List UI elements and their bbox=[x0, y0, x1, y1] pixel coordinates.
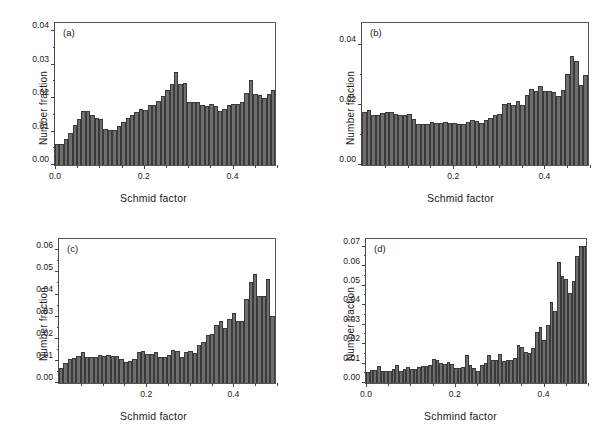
y-axis-tick bbox=[358, 104, 362, 105]
panel-b-plot-area: (b) 0.000.020.040.20.4 bbox=[361, 22, 589, 166]
y-axis-tick bbox=[364, 255, 367, 256]
x-axis-tick bbox=[124, 383, 125, 386]
x-axis-tick bbox=[544, 383, 545, 387]
y-axis-tick-label: 0.01 bbox=[32, 121, 49, 131]
x-axis-tick bbox=[522, 165, 523, 168]
x-axis-tick-label: 0.2 bbox=[449, 389, 461, 399]
x-axis-tick-label: 0.4 bbox=[227, 389, 239, 399]
y-axis-tick bbox=[364, 275, 367, 276]
y-axis-tick bbox=[55, 294, 59, 295]
x-axis-tick bbox=[567, 165, 568, 168]
panel-b: Number fraction (b) 0.000.020.040.20.4 S… bbox=[307, 0, 614, 216]
x-axis-tick bbox=[277, 165, 278, 168]
y-axis-tick-label: 0.05 bbox=[36, 262, 53, 272]
histogram-bar bbox=[583, 75, 588, 165]
x-axis-tick-label: 0.2 bbox=[138, 171, 150, 181]
y-axis-tick bbox=[55, 249, 59, 250]
x-axis-tick bbox=[99, 165, 100, 168]
panel-a-bars bbox=[55, 23, 275, 165]
x-axis-tick bbox=[408, 165, 409, 168]
x-axis-tick bbox=[146, 383, 147, 387]
y-axis-tick-label: 0.04 bbox=[339, 34, 356, 44]
y-axis-tick bbox=[57, 349, 60, 350]
x-axis-tick bbox=[410, 383, 411, 386]
y-axis-tick bbox=[364, 314, 367, 315]
panel-a-ylabel: Number fraction bbox=[38, 71, 49, 145]
x-axis-tick bbox=[233, 383, 234, 387]
x-axis-tick bbox=[499, 165, 500, 168]
y-axis-tick bbox=[364, 333, 367, 334]
y-axis-tick-label: 0.00 bbox=[339, 154, 356, 164]
x-axis-tick bbox=[103, 383, 104, 386]
y-axis-tick-label: 0.04 bbox=[343, 294, 360, 304]
y-axis-tick-label: 0.01 bbox=[36, 350, 53, 360]
y-axis-tick-label: 0.02 bbox=[32, 87, 49, 97]
y-axis-tick-label: 0.00 bbox=[36, 372, 53, 382]
x-axis-tick bbox=[144, 165, 145, 169]
x-axis-tick bbox=[233, 165, 234, 169]
x-axis-tick bbox=[476, 165, 477, 168]
panel-a: Number fraction (a) 0.000.010.020.030.04… bbox=[0, 0, 307, 216]
y-axis-tick bbox=[358, 164, 362, 165]
y-axis-tick bbox=[53, 147, 56, 148]
y-axis-tick bbox=[360, 74, 363, 75]
x-axis-tick-label: 0.2 bbox=[140, 389, 152, 399]
figure-schmid-factor-histograms: Number fraction (a) 0.000.010.020.030.04… bbox=[0, 0, 614, 432]
x-axis-tick bbox=[55, 165, 56, 169]
x-axis-tick bbox=[477, 383, 478, 386]
y-axis-tick bbox=[364, 353, 367, 354]
x-axis-tick bbox=[122, 165, 123, 168]
y-axis-tick bbox=[53, 47, 56, 48]
x-axis-tick bbox=[544, 165, 545, 169]
x-axis-tick bbox=[255, 383, 256, 386]
y-axis-tick-label: 0.03 bbox=[32, 54, 49, 64]
y-axis-tick-label: 0.00 bbox=[32, 154, 49, 164]
x-axis-tick bbox=[433, 383, 434, 386]
histogram-bar bbox=[583, 246, 587, 383]
panel-b-ylabel: Number fraction bbox=[345, 71, 356, 145]
x-axis-tick bbox=[210, 165, 211, 168]
panel-d-xlabel: Schmind factor bbox=[307, 410, 614, 422]
y-axis-tick bbox=[360, 134, 363, 135]
y-axis-tick bbox=[362, 343, 366, 344]
panel-d: Number fraction (d) 0.000.010.020.030.04… bbox=[307, 216, 614, 432]
x-axis-tick bbox=[81, 383, 82, 386]
y-axis-tick bbox=[362, 304, 366, 305]
panel-b-bars bbox=[362, 23, 588, 165]
y-axis-tick bbox=[57, 327, 60, 328]
y-axis-tick bbox=[55, 382, 59, 383]
panel-c-xlabel: Schmid factor bbox=[0, 410, 307, 422]
y-axis-tick bbox=[55, 316, 59, 317]
x-axis-tick bbox=[188, 165, 189, 168]
y-axis-tick-label: 0.03 bbox=[36, 306, 53, 316]
histogram-bar bbox=[270, 316, 274, 383]
panel-c: Number fraction (c) 0.000.010.020.030.04… bbox=[0, 216, 307, 432]
y-axis-tick-label: 0.06 bbox=[343, 256, 360, 266]
panel-c-plot-area: (c) 0.000.010.020.030.040.050.060.20.4 bbox=[58, 238, 276, 384]
x-axis-tick bbox=[499, 383, 500, 386]
y-axis-tick bbox=[51, 30, 55, 31]
x-axis-tick bbox=[385, 165, 386, 168]
panel-b-xlabel: Schmid factor bbox=[307, 192, 614, 204]
x-axis-tick bbox=[521, 383, 522, 386]
x-axis-tick bbox=[366, 383, 367, 387]
x-axis-tick bbox=[388, 383, 389, 386]
y-axis-tick bbox=[362, 246, 366, 247]
x-axis-tick bbox=[255, 165, 256, 168]
panel-d-bars bbox=[366, 239, 586, 383]
histogram-bar bbox=[271, 90, 275, 165]
y-axis-tick bbox=[53, 114, 56, 115]
x-axis-tick bbox=[566, 383, 567, 386]
x-axis-tick-label: 0.0 bbox=[49, 171, 61, 181]
x-axis-tick-label: 0.4 bbox=[538, 171, 550, 181]
y-axis-tick bbox=[358, 44, 362, 45]
y-axis-tick bbox=[362, 363, 366, 364]
x-axis-tick bbox=[590, 165, 591, 168]
x-axis-tick bbox=[190, 383, 191, 386]
y-axis-tick bbox=[51, 131, 55, 132]
panel-a-plot-area: (a) 0.000.010.020.030.040.00.20.4 bbox=[54, 22, 276, 166]
y-axis-tick-label: 0.05 bbox=[343, 275, 360, 285]
y-axis-tick bbox=[57, 305, 60, 306]
y-axis-tick-label: 0.07 bbox=[343, 236, 360, 246]
y-axis-tick-label: 0.04 bbox=[36, 284, 53, 294]
